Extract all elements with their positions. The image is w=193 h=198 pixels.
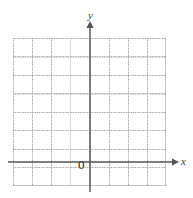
axes-layer bbox=[0, 0, 193, 198]
coordinate-grid-figure: y x 0 bbox=[0, 0, 193, 198]
origin-label: 0 bbox=[78, 158, 85, 171]
x-axis-arrowhead bbox=[172, 158, 179, 165]
x-axis-label: x bbox=[181, 156, 186, 167]
y-axis-label: y bbox=[88, 10, 93, 21]
y-axis-arrowhead bbox=[86, 21, 93, 28]
